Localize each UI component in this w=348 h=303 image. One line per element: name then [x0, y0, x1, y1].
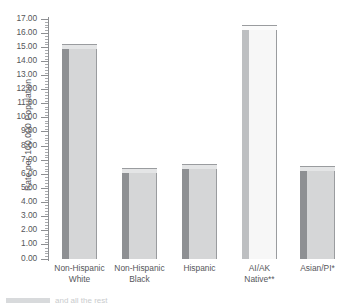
y-tick-mark — [41, 174, 48, 175]
y-tick-label: 7.00 — [21, 154, 37, 164]
footer-text: and all the rest — [55, 296, 107, 303]
x-axis-label-line1: Hispanic — [183, 263, 215, 273]
bar-side-face — [122, 173, 129, 259]
y-tick-label: 2.00 — [21, 224, 37, 234]
y-tick-mark — [41, 103, 48, 104]
y-tick-mark — [41, 146, 48, 147]
bar-side-face — [182, 169, 189, 259]
y-tick-label: 11.00 — [17, 97, 37, 107]
y-tick-mark — [41, 188, 48, 189]
y-tick-mark — [41, 89, 48, 90]
y-tick-label: 6.00 — [21, 168, 37, 178]
bar-top-face — [182, 164, 217, 169]
y-tick-label: 1.00 — [21, 238, 37, 248]
y-tick-mark — [41, 160, 48, 161]
bar-front-face — [189, 169, 217, 259]
y-tick-label: 5.00 — [21, 182, 37, 192]
y-tick-mark — [41, 117, 48, 118]
y-tick-label: 10.00 — [17, 111, 37, 121]
y-tick-mark — [41, 216, 48, 217]
bar-front-face — [307, 171, 335, 259]
bar-front-face — [69, 49, 97, 259]
y-tick-label: 12.00 — [17, 83, 37, 93]
bar-side-face — [300, 171, 307, 259]
bar-front-face — [249, 30, 277, 259]
bar-top-face — [62, 44, 97, 49]
bar — [122, 168, 157, 259]
y-tick-label: 14.00 — [17, 55, 37, 65]
clipped-footer: and all the rest — [0, 296, 348, 303]
y-tick-mark — [41, 131, 48, 132]
y-tick-mark — [41, 19, 48, 20]
y-tick-label: 8.00 — [21, 140, 37, 150]
bar — [242, 25, 277, 259]
y-tick-mark — [41, 47, 48, 48]
y-tick-label: 17.00 — [17, 13, 37, 23]
y-tick-mark — [41, 230, 48, 231]
y-tick-mark — [41, 244, 48, 245]
y-tick-mark — [41, 75, 48, 76]
bar-top-face — [242, 25, 277, 30]
y-tick-label: 4.00 — [21, 196, 37, 206]
plot-area — [50, 10, 348, 265]
x-axis-label-line2: Native** — [215, 274, 305, 285]
y-tick-label: 13.00 — [17, 69, 37, 79]
bar-front-face — [129, 173, 157, 259]
y-axis-ticks: 0.001.002.003.004.005.006.007.008.009.00… — [0, 0, 52, 303]
y-tick-label: 0.00 — [21, 253, 37, 263]
bar — [300, 166, 335, 259]
bar-side-face — [62, 49, 69, 259]
bar — [62, 44, 97, 259]
y-tick-label: 16.00 — [17, 27, 37, 37]
bar — [182, 164, 217, 259]
x-axis-label-line1: Asian/PI* — [300, 263, 334, 273]
y-tick-mark — [41, 202, 48, 203]
x-axis-label: Asian/PI* — [273, 263, 348, 274]
x-axis-label-line1: AI/AK — [249, 263, 270, 273]
y-tick-mark — [41, 33, 48, 34]
x-axis-label-line2: Black — [95, 274, 185, 285]
bar-top-face — [122, 168, 157, 173]
y-tick-mark — [41, 61, 48, 62]
footer-swatch — [6, 298, 50, 303]
bar-chart: Rate per 100,000 Population 0.001.002.00… — [0, 0, 348, 303]
y-tick-mark — [41, 259, 48, 260]
y-tick-label: 3.00 — [21, 210, 37, 220]
bar-side-face — [242, 30, 249, 259]
bar-top-face — [300, 166, 335, 171]
y-tick-label: 15.00 — [17, 41, 37, 51]
y-tick-label: 9.00 — [21, 125, 37, 135]
